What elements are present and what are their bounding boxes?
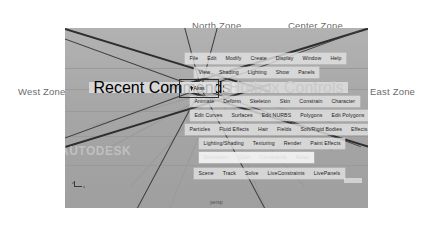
menu-item[interactable]: Fields xyxy=(272,124,295,135)
menu-item[interactable]: Track xyxy=(218,168,240,179)
viewport-corner-chip xyxy=(344,178,362,183)
menu-item[interactable]: Modify xyxy=(221,53,246,64)
gridline xyxy=(65,136,368,137)
menu-item[interactable]: Shading xyxy=(215,67,244,78)
menu-item[interactable]: File xyxy=(185,53,203,64)
menu-item[interactable]: Surfaces xyxy=(227,110,257,121)
menu-item[interactable]: Character xyxy=(327,96,360,107)
menu-item[interactable]: Window xyxy=(298,53,326,64)
hotbox-controls-menu[interactable]: Hotbox Controls xyxy=(224,82,348,93)
menu-item[interactable]: Solve xyxy=(241,168,263,179)
menu-item[interactable]: Help xyxy=(326,53,346,64)
menu-item[interactable]: LivePanels xyxy=(309,168,344,179)
menu-item[interactable]: Panels xyxy=(294,67,319,78)
hotbox-controls-label: Hotbox Controls xyxy=(224,79,348,97)
menu-item[interactable]: LiveConstraints xyxy=(263,168,309,179)
menu-item[interactable]: Edit xyxy=(203,53,221,64)
rendering-menu-row[interactable]: Lighting/ShadingTexturingRenderPaint Eff… xyxy=(199,138,345,149)
menu-item[interactable]: Effects xyxy=(346,124,368,135)
menu-item[interactable]: View xyxy=(194,67,215,78)
menu-item[interactable]: Render xyxy=(279,138,306,149)
menu-item[interactable]: Edit Polygons xyxy=(327,110,368,121)
menu-item[interactable]: Particles xyxy=(185,124,215,135)
menu-item[interactable]: Create xyxy=(246,53,271,64)
menu-item[interactable]: Skeleton xyxy=(245,96,275,107)
perspective-viewport[interactable]: FileEditModifyCreateDisplayWindowHelpVie… xyxy=(65,28,368,208)
menu-item[interactable]: Hair xyxy=(254,124,273,135)
menu-item[interactable]: Lighting xyxy=(243,67,271,78)
menu-item[interactable]: Edit Curves xyxy=(190,110,227,121)
menu-item[interactable]: Skin xyxy=(275,96,295,107)
menu-item[interactable]: Constraints xyxy=(255,152,291,163)
menu-item[interactable]: Constrain xyxy=(295,96,327,107)
menu-item[interactable]: Deform xyxy=(219,96,246,107)
gridline xyxy=(65,165,368,166)
menu-item[interactable]: Relax xyxy=(291,152,314,163)
menu-item[interactable]: Soft/Rigid Bodies xyxy=(296,124,347,135)
viewport-watermark: AUTODESK xyxy=(65,144,131,158)
menu-item[interactable]: Simulation xyxy=(199,152,233,163)
menu-item[interactable]: Polygons xyxy=(296,110,327,121)
dynamics-menu-row[interactable]: ParticlesFluid EffectsHairFieldsSoft/Rig… xyxy=(185,124,368,135)
west-zone-label: West Zone xyxy=(18,86,66,97)
menu-item[interactable]: Texturing xyxy=(248,138,279,149)
panel-menu-row[interactable]: ViewShadingLightingShowPanels xyxy=(194,67,319,78)
main-menu-row[interactable]: FileEditModifyCreateDisplayWindowHelp xyxy=(185,53,346,64)
axis-orientation-icon: z x xyxy=(72,180,88,192)
menu-item[interactable]: Paint Effects xyxy=(306,138,345,149)
menu-item[interactable]: Cloth xyxy=(233,152,255,163)
east-zone-label: East Zone xyxy=(370,86,415,97)
live-menu-row[interactable]: SceneTrackSolveLiveConstraintsLivePanels xyxy=(194,168,345,179)
menu-item[interactable]: Display xyxy=(271,53,298,64)
menu-item[interactable]: Lighting/Shading xyxy=(199,138,248,149)
cloth-menu-row[interactable]: SimulationClothConstraintsRelax xyxy=(199,152,314,163)
axis-label-x: x xyxy=(83,184,85,189)
axis-label-z: z xyxy=(72,180,74,185)
modeling-menu-row[interactable]: Edit CurvesSurfacesEdit NURBSPolygonsEdi… xyxy=(190,110,368,121)
viewport-panel-label: persp xyxy=(65,200,368,205)
marking-menu-cursor-box xyxy=(179,79,219,98)
menu-item[interactable]: Scene xyxy=(194,168,218,179)
menu-item[interactable]: Edit NURBS xyxy=(257,110,296,121)
menu-item[interactable]: Show xyxy=(271,67,293,78)
menu-item[interactable]: Fluid Effects xyxy=(215,124,254,135)
